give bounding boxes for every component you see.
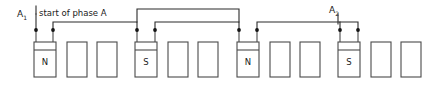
link-coil3-to-coil4-wire	[257, 22, 340, 30]
winding-diagram-root: N S N S A1 A2 start of phase A	[0, 0, 438, 91]
pole-label-s1: S	[143, 57, 148, 67]
terminal-a2-subscript: 2	[335, 10, 339, 17]
slot-rect	[270, 42, 290, 77]
terminal-label-a1: A1	[17, 9, 27, 21]
upper-loop-wire	[137, 9, 239, 22]
pole-label-n1: N	[42, 57, 48, 67]
lead-a2-wire	[340, 22, 358, 30]
pole-label-n2: N	[245, 57, 251, 67]
junction-dot	[135, 28, 139, 32]
slot-rect	[371, 42, 391, 77]
junction-dot	[51, 28, 55, 32]
junction-dot	[153, 28, 157, 32]
slot-rect	[198, 42, 218, 77]
pole-label-s2: S	[346, 57, 351, 67]
junction-dot	[237, 28, 241, 32]
slot-rect	[300, 42, 320, 77]
slot-rect	[97, 42, 117, 77]
junction-dot	[255, 28, 259, 32]
stator-winding-diagram: N S N S A1 A2 start of phase A	[0, 0, 438, 91]
junction-dot	[356, 28, 360, 32]
link-coil2-to-coil3-wire	[155, 22, 239, 30]
junction-dot-group	[34, 28, 360, 32]
slot-rect	[168, 42, 188, 77]
terminal-label-a2: A2	[329, 5, 339, 17]
slot-rect	[67, 42, 87, 77]
phase-start-caption: start of phase A	[39, 8, 107, 18]
slot-rect	[401, 42, 421, 77]
terminal-a1-subscript: 1	[23, 14, 27, 21]
link-coil1-to-coil2-wire	[53, 22, 137, 30]
junction-dot	[34, 28, 38, 32]
slot-group	[34, 42, 421, 77]
junction-dot	[338, 28, 342, 32]
